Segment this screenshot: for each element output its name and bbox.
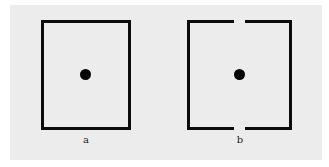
- figure-b-top-edge-right: [245, 20, 292, 23]
- figure-b-label: b: [230, 135, 250, 145]
- figure-b-left-edge: [187, 20, 190, 130]
- figure-b-top-edge-left: [187, 20, 234, 23]
- figure-a-bottom-edge: [41, 127, 131, 130]
- figure-b-center-dot: [234, 69, 245, 80]
- figure-a-center-dot: [80, 69, 91, 80]
- figure-b-right-edge: [289, 20, 292, 130]
- figure-a-label: a: [76, 135, 96, 145]
- figure-a-right-edge: [128, 20, 131, 130]
- figure-b-bottom-edge-right: [245, 127, 292, 130]
- figure-a-top-edge: [41, 20, 131, 23]
- figure-background: [10, 5, 322, 160]
- figure-a-left-edge: [41, 20, 44, 130]
- figure-b-bottom-edge-left: [187, 127, 234, 130]
